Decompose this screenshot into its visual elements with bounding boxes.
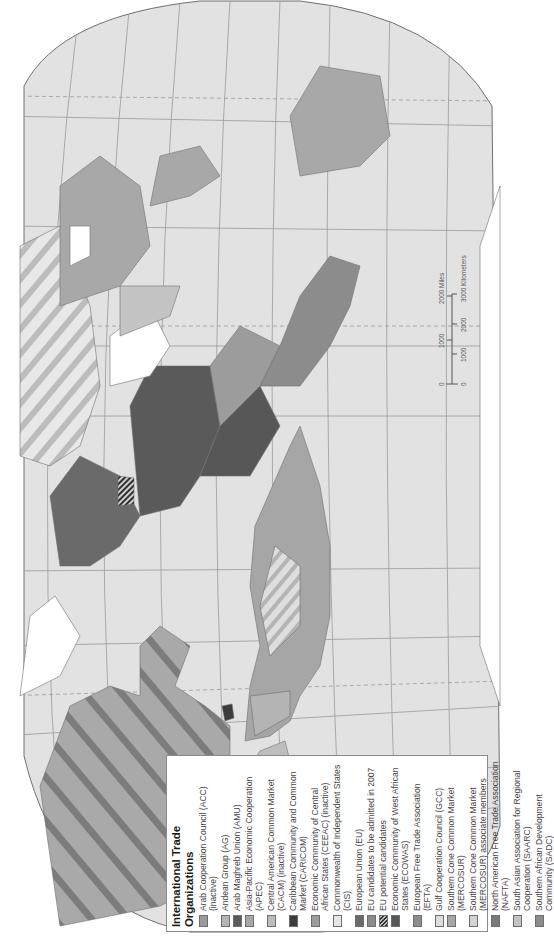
scale-bar: 0 1000 2000 Miles 0 1000 2000 3000 Kilom…: [436, 280, 476, 390]
legend-item: South Asian Association for Regional Coo…: [512, 760, 532, 927]
legend-item: EU candidates to be admitted in 2007: [366, 760, 376, 927]
legend-item: Central American Common Market (CACM) (i…: [266, 760, 286, 927]
legend-swatch: [289, 915, 298, 927]
legend-label: Asia-Pacific Economic Cooperation (APEC): [244, 760, 264, 911]
legend-item: Southern Cone Common Market (MERCOSUR) a…: [468, 760, 488, 927]
legend-swatch: [267, 915, 276, 927]
scale-km-2000: 2000: [460, 318, 467, 332]
legend-item: Andean Group (AG): [220, 760, 230, 927]
legend-swatch: [491, 915, 500, 927]
legend-item: EU potential candidates: [378, 760, 388, 927]
legend-label: North American Free Trade Association (N…: [490, 760, 510, 911]
legend-label: Andean Group (AG): [220, 835, 230, 911]
legend-item: North American Free Trade Association (N…: [490, 760, 510, 927]
scale-miles-0: 0: [438, 382, 445, 386]
legend-title: International Trade Organizations: [170, 760, 196, 927]
legend-swatch: [435, 915, 444, 927]
legend-label: EU potential candidates: [378, 820, 388, 911]
legend-label: Central American Common Market (CACM) (i…: [266, 760, 286, 911]
scale-miles-unit: Miles: [438, 273, 445, 288]
scale-km-1000: 1000: [460, 348, 467, 362]
legend-label: EU candidates to be admitted in 2007: [366, 768, 376, 911]
legend-item: Southern Cone Common Market (MERCOSUR): [446, 760, 466, 927]
legend-swatch: [355, 915, 364, 927]
legend-item: Caribbean Community and Common Market (C…: [288, 760, 308, 927]
scale-km-0: 0: [460, 382, 467, 386]
legend-swatch: [391, 915, 400, 927]
legend-swatch: [245, 915, 254, 927]
region-antarctica: [480, 186, 500, 706]
region-eu-potential: [118, 476, 134, 506]
legend-item: Asia-Pacific Economic Cooperation (APEC): [244, 760, 264, 927]
legend-item: European Union (EU): [354, 760, 364, 927]
legend-item: Commonwealth of Independent States (CIS): [332, 760, 352, 927]
legend-swatch: [221, 915, 230, 927]
legend-swatch: [233, 915, 242, 927]
legend-label: Southern Cone Common Market (MERCOSUR) a…: [468, 760, 488, 911]
legend: International Trade Organizations Arab C…: [166, 755, 488, 932]
legend-item: Southern African Development Community (…: [534, 760, 554, 927]
scale-km-unit: Kilometers: [460, 255, 467, 286]
legend-swatch: [311, 915, 320, 927]
scale-miles-2000: 2000: [438, 290, 445, 304]
legend-swatch: [535, 915, 544, 927]
legend-item: European Free Trade Association (EFTA): [412, 760, 432, 927]
legend-label: Arab Maghreb Union (AMU): [232, 804, 242, 911]
legend-label: Caribbean Community and Common Market (C…: [288, 760, 308, 911]
legend-label: European Free Trade Association (EFTA): [412, 760, 432, 911]
legend-swatch: [333, 915, 342, 927]
legend-swatch: [413, 915, 422, 927]
legend-label: Southern African Development Community (…: [534, 760, 554, 911]
legend-swatch: [447, 915, 456, 927]
legend-item: Arab Cooperation Council (ACC) (inactive…: [198, 760, 218, 927]
legend-item: Economic Community of Central African St…: [310, 760, 330, 927]
legend-label: Economic Community of West African State…: [390, 760, 410, 911]
legend-swatch-hatched: [379, 915, 388, 927]
scale-miles-1000: 1000: [438, 334, 445, 348]
legend-label: Commonwealth of Independent States (CIS): [332, 760, 352, 911]
legend-swatch: [199, 915, 208, 927]
legend-swatch: [513, 915, 522, 927]
legend-label: Southern Cone Common Market (MERCOSUR): [446, 760, 466, 911]
legend-swatch: [367, 915, 376, 927]
legend-item: Arab Maghreb Union (AMU): [232, 760, 242, 927]
legend-item: Economic Community of West African State…: [390, 760, 410, 927]
legend-label: South Asian Association for Regional Coo…: [512, 760, 532, 911]
legend-swatch: [469, 915, 478, 927]
legend-label: Economic Community of Central African St…: [310, 760, 330, 911]
legend-label: Arab Cooperation Council (ACC) (inactive…: [198, 760, 218, 911]
legend-label: European Union (EU): [354, 829, 364, 911]
scale-km-3000: 3000: [460, 288, 467, 302]
legend-label: Gulf Cooperation Council (GCC): [434, 788, 444, 911]
legend-item: Gulf Cooperation Council (GCC): [434, 760, 444, 927]
